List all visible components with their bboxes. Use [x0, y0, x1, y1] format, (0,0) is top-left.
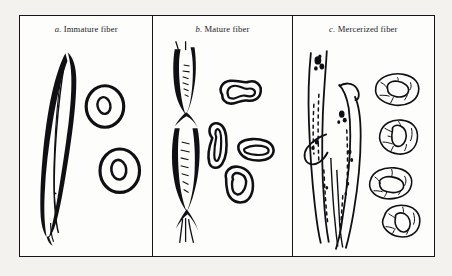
swollen-cylindrical-fiber	[304, 50, 360, 249]
flat-ribbon-fiber	[40, 52, 76, 246]
rounded-swollen-cross-section-2	[379, 120, 417, 154]
kidney-bean-cross-section-3	[239, 139, 274, 160]
panel-a-caption: a. Immature fiber	[20, 24, 152, 34]
panel-mature-fiber: b. Mature fiber	[153, 16, 292, 256]
rounded-swollen-cross-section-4	[382, 205, 419, 237]
rounded-swollen-cross-section-1	[375, 74, 418, 105]
figure-plate: a. Immature fiber	[19, 15, 435, 257]
panel-c-caption-text: Mercerized fiber	[338, 24, 398, 34]
panel-mercerized-fiber: c. Mercerized fiber	[293, 16, 434, 256]
panel-c-artwork	[293, 38, 434, 256]
rounded-swollen-cross-section-3	[369, 168, 411, 199]
panel-c-caption: c. Mercerized fiber	[293, 24, 434, 34]
panel-a-caption-letter: a.	[55, 24, 62, 34]
panel-b-caption-text: Mature fiber	[205, 24, 250, 34]
panel-b-caption: b. Mature fiber	[153, 24, 291, 34]
oval-cross-section-2	[99, 148, 140, 193]
kidney-bean-cross-section-2	[209, 123, 227, 168]
panel-a-caption-text: Immature fiber	[64, 24, 118, 34]
oval-cross-section-1	[85, 85, 125, 128]
panel-b-caption-letter: b.	[195, 24, 202, 34]
convoluted-twisted-fiber	[172, 41, 200, 243]
panel-immature-fiber: a. Immature fiber	[20, 16, 153, 256]
kidney-bean-cross-section-4	[226, 167, 253, 203]
panel-a-artwork	[20, 38, 152, 256]
kidney-bean-cross-section-1	[221, 81, 261, 104]
panel-c-caption-letter: c.	[329, 24, 335, 34]
panel-b-artwork	[153, 38, 291, 256]
